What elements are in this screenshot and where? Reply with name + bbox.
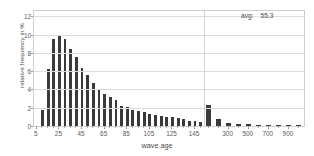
x-minor-tick-mark [160,126,161,128]
x-minor-tick-mark [126,126,127,128]
bar [171,117,174,126]
x-minor-tick-mark [177,126,178,128]
bar [86,75,89,126]
plot-area [33,10,305,127]
bar [69,49,72,126]
x-tick-label: 5 [34,130,38,137]
bar [75,57,78,126]
bar [120,106,123,126]
x-minor-tick-mark [81,126,82,128]
x-tick-label: 700 [263,130,274,137]
bar [160,116,163,126]
x-tick-label: 300 [222,130,233,137]
x-axis-ticks: 525456585105125145300500700900 [33,126,305,140]
y-tick-mark [31,71,33,72]
x-minor-tick-mark [155,126,156,128]
bar [143,112,146,126]
x-minor-tick-mark [92,126,93,128]
y-tick-mark [31,53,33,54]
x-minor-tick-mark [36,126,37,128]
x-minor-tick-mark [258,126,259,128]
x-minor-tick-mark [64,126,65,128]
x-minor-tick-mark [208,126,209,128]
x-tick-label: 125 [166,130,177,137]
x-minor-tick-mark [138,126,139,128]
y-tick-mark [31,108,33,109]
y-tick-label: 12 [24,13,31,20]
x-tick-label: 25 [55,130,62,137]
y-tick-mark [31,16,33,17]
x-minor-tick-mark [121,126,122,128]
y-tick-mark [31,35,33,36]
y-tick-mark [31,89,33,90]
x-minor-tick-mark [149,126,150,128]
bar [154,115,157,126]
average-label: avg: [241,12,253,19]
x-minor-tick-mark [58,126,59,128]
bar [126,107,129,126]
bar [41,110,44,126]
bar [177,118,180,126]
bar-series [34,11,304,126]
x-minor-tick-mark [75,126,76,128]
x-minor-tick-mark [288,126,289,128]
gridline-vertical [204,11,205,126]
x-minor-tick-mark [98,126,99,128]
x-minor-tick-mark [53,126,54,128]
x-tick-label: 105 [144,130,155,137]
x-minor-tick-mark [70,126,71,128]
x-minor-tick-mark [41,126,42,128]
x-minor-tick-mark [166,126,167,128]
x-minor-tick-mark [268,126,269,128]
x-minor-tick-mark [218,126,219,128]
x-minor-tick-mark [87,126,88,128]
x-minor-tick-mark [171,126,172,128]
bar [148,114,151,126]
x-minor-tick-mark [115,126,116,128]
x-tick-label: 45 [77,130,84,137]
bar [103,94,106,126]
x-tick-label: 85 [123,130,130,137]
bar [165,117,168,126]
x-minor-tick-mark [183,126,184,128]
x-minor-tick-mark [200,126,201,128]
bar [216,119,221,126]
gridline-horizontal [34,108,304,109]
x-minor-tick-mark [278,126,279,128]
x-tick-label: 65 [100,130,107,137]
bar [58,35,61,126]
x-minor-tick-mark [47,126,48,128]
x-minor-tick-mark [298,126,299,128]
gridline-horizontal [34,71,304,72]
x-minor-tick-mark [194,126,195,128]
bar [52,39,55,126]
x-axis-title: wave age [0,141,314,150]
average-annotation: avg:55.3 [241,12,273,19]
x-minor-tick-mark [104,126,105,128]
x-tick-label: 145 [189,130,200,137]
x-tick-label: 500 [242,130,253,137]
bar [109,97,112,126]
x-minor-tick-mark [188,126,189,128]
bar [182,119,185,126]
x-minor-tick-mark [228,126,229,128]
x-minor-tick-mark [248,126,249,128]
x-minor-tick-mark [143,126,144,128]
bar [115,100,118,126]
gridline-horizontal [34,53,304,54]
bar [47,69,50,127]
x-minor-tick-mark [238,126,239,128]
x-tick-label: 900 [283,130,294,137]
x-minor-tick-mark [109,126,110,128]
gridline-horizontal [34,89,304,90]
average-value: 55.3 [260,12,273,19]
bar [137,111,140,126]
chart-figure: relative frequency in % 024681012 525456… [0,0,314,156]
y-tick-label: 10 [24,31,31,38]
x-minor-tick-mark [132,126,133,128]
gridline-horizontal [34,35,304,36]
bar [81,68,84,126]
bar [131,110,134,126]
